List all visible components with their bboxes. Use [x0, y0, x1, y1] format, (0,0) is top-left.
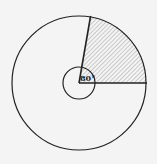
angle-label: 80° — [80, 73, 95, 83]
sector-diagram: 80° — [0, 0, 157, 164]
